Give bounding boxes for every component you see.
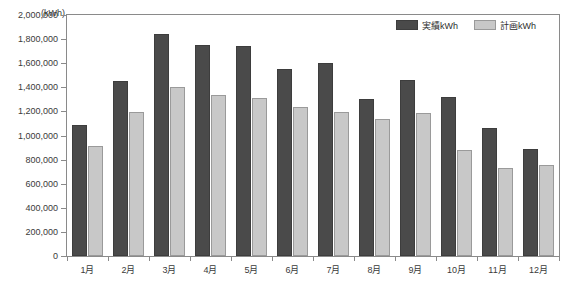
bar-group — [436, 15, 477, 256]
y-axis-tick-label: 0 — [0, 251, 58, 261]
bar-plan[interactable] — [457, 150, 472, 256]
y-axis-tick-label: 1,000,000 — [0, 131, 58, 141]
x-axis-tick-label: 3月 — [162, 263, 176, 276]
x-axis-tick-label: 5月 — [244, 263, 258, 276]
bar-group — [395, 15, 436, 256]
bar-actual[interactable] — [195, 45, 210, 256]
bar-plan[interactable] — [88, 146, 103, 256]
x-axis-tick-mark — [67, 256, 68, 261]
bar-plan[interactable] — [539, 165, 554, 256]
bar-plan[interactable] — [498, 168, 513, 256]
bar-actual[interactable] — [154, 34, 169, 256]
y-axis-tick-label: 1,600,000 — [0, 58, 58, 68]
bar-actual[interactable] — [318, 63, 333, 256]
bar-actual[interactable] — [400, 80, 415, 256]
x-axis-tick-mark — [149, 256, 150, 261]
bar-actual[interactable] — [441, 97, 456, 256]
y-axis-tick-mark — [61, 39, 66, 40]
legend-entry-actual[interactable]: 実績kWh — [396, 19, 458, 32]
x-axis-tick-label: 12月 — [529, 263, 548, 276]
bar-plan[interactable] — [375, 119, 390, 256]
y-axis-tick-label: 1,200,000 — [0, 106, 58, 116]
bar-plan[interactable] — [334, 112, 349, 256]
y-axis-tick-mark — [61, 136, 66, 137]
bar-actual[interactable] — [359, 99, 374, 256]
bar-group — [67, 15, 108, 256]
y-axis-tick-label: 400,000 — [0, 203, 58, 213]
bar-plan[interactable] — [252, 98, 267, 256]
y-axis-tick-label: 600,000 — [0, 179, 58, 189]
x-axis-tick-label: 8月 — [367, 263, 381, 276]
x-axis-tick-label: 4月 — [203, 263, 217, 276]
x-axis-tick-label: 10月 — [447, 263, 466, 276]
y-axis-tick-mark — [61, 87, 66, 88]
y-axis-tick-mark — [61, 111, 66, 112]
x-axis-tick-mark — [354, 256, 355, 261]
x-axis-tick-mark — [190, 256, 191, 261]
bar-group — [518, 15, 559, 256]
bar-actual[interactable] — [523, 149, 538, 256]
x-axis-tick-label: 7月 — [326, 263, 340, 276]
bar-plan[interactable] — [170, 87, 185, 256]
x-axis-tick-label: 11月 — [488, 263, 506, 276]
y-axis-tick-mark — [61, 63, 66, 64]
bar-group — [313, 15, 354, 256]
chart-legend: 実績kWh 計画kWh — [396, 17, 536, 33]
y-axis-tick-mark — [61, 160, 66, 161]
x-axis-tick-label: 2月 — [121, 263, 135, 276]
y-axis-tick-mark — [61, 256, 66, 257]
bar-plan[interactable] — [293, 107, 308, 256]
x-axis-tick-mark — [313, 256, 314, 261]
y-axis-tick-mark — [61, 15, 66, 16]
y-axis-tick-label: 1,400,000 — [0, 82, 58, 92]
bar-actual[interactable] — [277, 69, 292, 256]
y-axis-tick-mark — [61, 208, 66, 209]
x-axis-tick-mark — [436, 256, 437, 261]
dark-swatch-icon — [396, 20, 418, 30]
x-axis-tick-mark — [559, 256, 560, 261]
y-axis-tick-mark — [61, 184, 66, 185]
bar-group — [108, 15, 149, 256]
bar-group — [190, 15, 231, 256]
bar-actual[interactable] — [72, 125, 87, 256]
x-axis-tick-mark — [272, 256, 273, 261]
y-axis-tick-label: 1,800,000 — [0, 34, 58, 44]
x-axis-tick-mark — [518, 256, 519, 261]
x-axis-tick-label: 9月 — [408, 263, 422, 276]
x-axis-tick-label: 1月 — [80, 263, 94, 276]
y-axis-tick-label: 800,000 — [0, 155, 58, 165]
bar-actual[interactable] — [236, 46, 251, 256]
bar-group — [354, 15, 395, 256]
legend-label-actual: 実績kWh — [422, 19, 458, 32]
bars-area — [67, 15, 559, 256]
legend-entry-plan[interactable]: 計画kWh — [474, 19, 536, 32]
bar-plan[interactable] — [129, 112, 144, 256]
y-axis-tick-label: 200,000 — [0, 227, 58, 237]
x-axis-tick-label: 6月 — [285, 263, 299, 276]
bar-actual[interactable] — [482, 128, 497, 256]
bar-group — [272, 15, 313, 256]
x-axis-tick-mark — [477, 256, 478, 261]
y-axis-tick-label: 2,000,000 — [0, 10, 58, 20]
legend-label-plan: 計画kWh — [500, 19, 536, 32]
bar-plan[interactable] — [416, 113, 431, 256]
bar-group — [477, 15, 518, 256]
light-swatch-icon — [474, 20, 496, 30]
bar-group — [231, 15, 272, 256]
x-axis-tick-mark — [395, 256, 396, 261]
x-axis-tick-mark — [231, 256, 232, 261]
bar-plan[interactable] — [211, 95, 226, 256]
bar-actual[interactable] — [113, 81, 128, 256]
bar-chart-figure: (kWh) 実績kWh 計画kWh 0200,000400,000600,000… — [0, 0, 567, 285]
y-axis-tick-mark — [61, 232, 66, 233]
x-axis-tick-mark — [108, 256, 109, 261]
bar-group — [149, 15, 190, 256]
